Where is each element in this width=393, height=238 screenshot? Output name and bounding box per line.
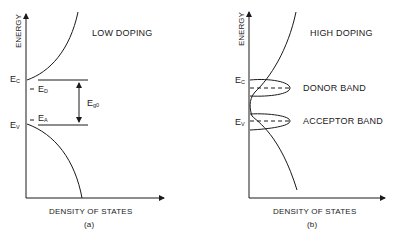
panel-a-y-axis-label: ENERGY — [14, 14, 23, 48]
panel-a-ec-label: EC — [10, 74, 20, 84]
panel-b-donor-band — [250, 79, 290, 96]
panel-b-conduction-dos-curve — [250, 12, 297, 190]
panel-b-x-axis-label: DENSITY OF STATES — [273, 207, 356, 216]
panel-b-acceptor-band — [250, 114, 290, 130]
panel-b-title: HIGH DOPING — [310, 28, 373, 38]
panel-b-acceptor-band-label: ACCEPTOR BAND — [303, 116, 383, 126]
panel-a-ea-label: EA — [38, 113, 48, 123]
panel-a-title: LOW DOPING — [92, 28, 153, 38]
panel-a-valence-dos-curve — [27, 124, 82, 198]
panel-b-y-axis-label: ENERGY — [237, 12, 246, 46]
panel-b-ev-label: EV — [235, 117, 245, 127]
panel-a-ev-label: EV — [10, 120, 20, 130]
panel-a-caption: (a) — [84, 220, 94, 229]
panel-a-ed-label: ED — [38, 84, 48, 94]
panel-a-conduction-dos-curve — [27, 12, 78, 80]
panel-a-x-axis-label: DENSITY OF STATES — [49, 207, 132, 216]
panel-b-ec-label: EC — [235, 75, 245, 85]
panel-b-donor-band-label: DONOR BAND — [303, 83, 366, 93]
panel-b-caption: (b) — [307, 220, 317, 229]
panel-a-gap-label: Eg0 — [87, 98, 99, 108]
